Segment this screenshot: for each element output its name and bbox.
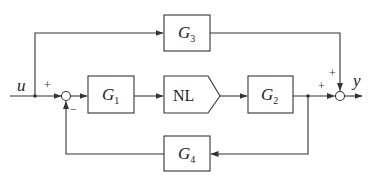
sum-junction-right	[336, 92, 345, 101]
sign-minus-left: −	[70, 102, 77, 116]
output-label-y: y	[351, 71, 361, 90]
sign-plus-top: +	[329, 66, 336, 80]
block-nl-label: NL	[173, 87, 194, 104]
block-diagram: u + − G1 NL G2 G4 G3 + + y	[0, 0, 379, 182]
input-label-u: u	[17, 76, 26, 95]
sum-junction-left	[62, 92, 71, 101]
sign-plus-left-right: +	[318, 79, 325, 93]
sign-plus-left: +	[44, 78, 51, 92]
